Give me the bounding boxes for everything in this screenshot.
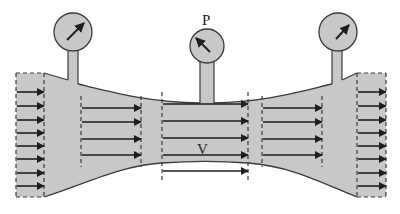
pressure-gauge-middle [190, 29, 224, 63]
pressure-gauge-right [319, 13, 357, 51]
pressure-gauge-left [54, 13, 92, 51]
pressure-label: P [202, 12, 210, 28]
venturi-diagram: P V [0, 0, 400, 214]
venturi-tube-body [16, 52, 386, 197]
